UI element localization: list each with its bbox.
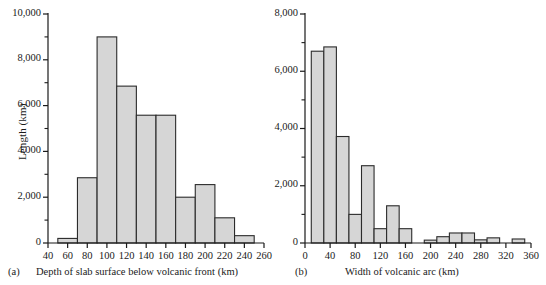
y-tick-label: 10,000 bbox=[12, 7, 41, 18]
histogram-bar bbox=[362, 166, 375, 243]
histogram-bar bbox=[336, 137, 349, 243]
histogram-bar bbox=[77, 178, 97, 243]
histogram-bar bbox=[97, 37, 117, 243]
histogram-bar bbox=[349, 214, 362, 243]
histogram-bar bbox=[399, 229, 412, 243]
y-tick-label: 4,000 bbox=[17, 144, 41, 155]
histogram-bar bbox=[117, 86, 137, 243]
histogram-bar bbox=[195, 185, 215, 243]
bar-group bbox=[58, 37, 254, 243]
y-tick-label: 2,000 bbox=[274, 178, 298, 189]
y-tick-label: 0 bbox=[293, 236, 298, 247]
histogram-bar bbox=[324, 47, 337, 243]
figure-histograms: Length (km) (a) Depth of slab surface be… bbox=[0, 0, 546, 285]
histogram-bar bbox=[176, 197, 196, 243]
histogram-bar bbox=[215, 218, 235, 243]
x-tick-label: 360 bbox=[511, 250, 546, 261]
bar-group bbox=[311, 47, 524, 243]
histogram-bar bbox=[311, 51, 324, 243]
histogram-bar bbox=[487, 238, 500, 243]
panel-a-x-axis-label: Depth of slab surface below volcanic fro… bbox=[36, 266, 238, 277]
y-tick-label: 2,000 bbox=[17, 190, 41, 201]
histogram-bar bbox=[374, 229, 387, 243]
histogram-bar bbox=[449, 233, 462, 243]
histogram-bar bbox=[462, 233, 475, 243]
histogram-bar bbox=[437, 237, 450, 243]
panel-b-letter: (b) bbox=[295, 266, 307, 277]
panel-b: (b) Width of volcanic arc (km) 02,0004,0… bbox=[273, 0, 546, 285]
panel-a: Length (km) (a) Depth of slab surface be… bbox=[0, 0, 273, 285]
panel-b-x-axis-label: Width of volcanic arc (km) bbox=[345, 266, 459, 277]
histogram-bar bbox=[512, 239, 525, 243]
panel-b-plot bbox=[273, 0, 546, 285]
y-tick-label: 8,000 bbox=[274, 7, 298, 18]
y-tick-label: 4,000 bbox=[274, 121, 298, 132]
y-tick-label: 0 bbox=[36, 236, 41, 247]
y-tick-label: 6,000 bbox=[17, 98, 41, 109]
y-tick-label: 6,000 bbox=[274, 64, 298, 75]
histogram-bar bbox=[58, 238, 78, 243]
y-tick-label: 8,000 bbox=[17, 52, 41, 63]
histogram-bar bbox=[235, 236, 255, 243]
histogram-bar bbox=[136, 115, 156, 243]
panel-a-letter: (a) bbox=[8, 266, 20, 277]
histogram-bar bbox=[156, 115, 176, 243]
histogram-bar bbox=[387, 206, 400, 243]
